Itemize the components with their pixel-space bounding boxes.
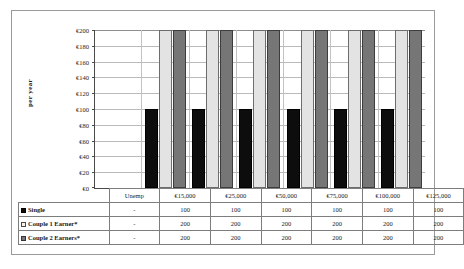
y-axis-title: per year [26, 63, 34, 123]
table-cell: 200 [413, 231, 464, 245]
table-cell: 200 [210, 217, 261, 231]
y-tick-label: €60 [79, 137, 89, 144]
y-tick-mark [92, 30, 95, 31]
table-cell: 200 [160, 231, 211, 245]
bar-slot [239, 30, 252, 188]
y-tick-label: €160 [76, 58, 89, 65]
white-square-icon [21, 222, 26, 227]
legend-row-label: Single [19, 203, 110, 217]
bar-slot [253, 30, 266, 188]
y-tick-label: €140 [76, 74, 89, 81]
table-header-cell: €75,000 [312, 189, 363, 203]
y-tick-mark [92, 109, 95, 110]
bar [334, 109, 347, 188]
bar [145, 109, 158, 188]
plot-box [94, 30, 425, 189]
y-tick-mark [92, 93, 95, 94]
bar [159, 30, 172, 188]
y-tick-mark [92, 172, 95, 173]
bar-group [284, 30, 331, 188]
table-cell: 200 [413, 217, 464, 231]
table-cell: 100 [413, 203, 464, 217]
bar-slot [409, 30, 422, 188]
bar-slot [220, 30, 233, 188]
table-header-cell: €15,000 [160, 189, 211, 203]
bar-slot [173, 30, 186, 188]
bar-slot [112, 30, 125, 188]
bar [192, 109, 205, 188]
table-cell: 100 [210, 203, 261, 217]
bar-slot [159, 30, 172, 188]
y-tick-label: €200 [76, 27, 89, 34]
y-tick-mark [92, 62, 95, 63]
bar-slot [315, 30, 328, 188]
figure-frame: per year €0€20€40€60€80€100€120€140€160€… [11, 10, 435, 255]
table-header-cell: €25,000 [210, 189, 261, 203]
table-row: Couple 2 Earners*-200200200200200200 [19, 231, 464, 245]
legend-label-text: Couple 1 Earner* [28, 220, 77, 227]
y-tick-mark [92, 46, 95, 47]
y-tick-mark [92, 141, 95, 142]
table-cell: 100 [261, 203, 312, 217]
table-header-cell: €125,000 [413, 189, 464, 203]
bar [253, 30, 266, 188]
bar-group [190, 30, 237, 188]
bar-slot [192, 30, 205, 188]
bar-slot [362, 30, 375, 188]
bar [348, 30, 361, 188]
bar [395, 30, 408, 188]
table-cell: - [109, 217, 160, 231]
bar-group [95, 30, 142, 188]
legend-label-text: Single [28, 206, 45, 213]
table-cell: 200 [312, 217, 363, 231]
bar [267, 30, 280, 188]
bar [173, 30, 186, 188]
bar [301, 30, 314, 188]
y-tick-mark [92, 125, 95, 126]
bar-slot [348, 30, 361, 188]
y-tick-label: €100 [76, 106, 89, 113]
data-table: Unemp€15,000€25,000€50,000€75,000€100,00… [18, 188, 464, 245]
bar-group [331, 30, 378, 188]
table-body: Single-100100100100100100Couple 1 Earner… [19, 203, 464, 245]
y-axis-tick-labels: €0€20€40€60€80€100€120€140€160€180€200 [50, 30, 92, 188]
table-header-row: Unemp€15,000€25,000€50,000€75,000€100,00… [19, 189, 464, 203]
bar-group [379, 30, 425, 188]
bar-group [142, 30, 189, 188]
bar-slot [395, 30, 408, 188]
bar-slot [206, 30, 219, 188]
bar-slot [98, 30, 111, 188]
table-cell: 200 [261, 217, 312, 231]
bar-slot [145, 30, 158, 188]
table-row: Single-100100100100100100 [19, 203, 464, 217]
y-tick-label: €120 [76, 90, 89, 97]
y-tick-label: €180 [76, 42, 89, 49]
table-cell: 100 [362, 203, 413, 217]
legend-row-label: Couple 1 Earner* [19, 217, 110, 231]
table-header-cell: €100,000 [362, 189, 413, 203]
table-cell: - [109, 203, 160, 217]
table-cell: 200 [261, 231, 312, 245]
table-cell: 200 [362, 231, 413, 245]
table-cell: - [109, 231, 160, 245]
bar-slot [287, 30, 300, 188]
table-row: Couple 1 Earner*-200200200200200200 [19, 217, 464, 231]
bar-group [237, 30, 284, 188]
y-tick-label: €20 [79, 169, 89, 176]
black-square-icon [21, 208, 26, 213]
bar [409, 30, 422, 188]
table-cell: 200 [312, 231, 363, 245]
bar-slot [301, 30, 314, 188]
bar [362, 30, 375, 188]
y-tick-mark [92, 77, 95, 78]
bar-groups [95, 30, 425, 188]
bar [220, 30, 233, 188]
bar [287, 109, 300, 188]
table-cell: 200 [210, 231, 261, 245]
y-tick-mark [92, 156, 95, 157]
table-cell: 100 [312, 203, 363, 217]
table-header-cell: €50,000 [261, 189, 312, 203]
table-cell: 200 [362, 217, 413, 231]
table-header-cell: Unemp [109, 189, 160, 203]
legend-label-text: Couple 2 Earners* [28, 234, 80, 241]
